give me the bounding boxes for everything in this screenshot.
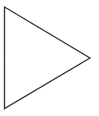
diagram-canvas [0, 0, 99, 116]
right-pointing-triangle [5, 7, 91, 109]
